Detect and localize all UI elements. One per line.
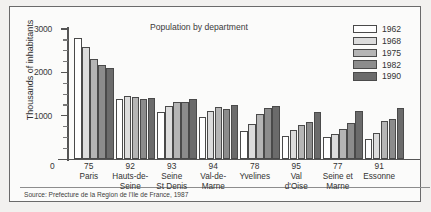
y-minor-tick-500 (63, 137, 68, 138)
x-label-name-77-1: Marne (309, 182, 367, 193)
y-tick-label-2000: 2000 (34, 67, 52, 77)
legend-label-1975: 1975 (382, 48, 401, 58)
bar-93-1975[interactable] (173, 102, 181, 159)
bar-94-1990[interactable] (231, 105, 239, 159)
bar-75-1975[interactable] (90, 59, 98, 159)
bar-94-1968[interactable] (207, 111, 215, 159)
bar-75-1982[interactable] (98, 65, 106, 159)
y-tick-1000 (61, 115, 68, 116)
y-tick-label-1000: 1000 (34, 111, 52, 121)
bar-91-1968[interactable] (373, 133, 381, 159)
bar-75-1962[interactable] (74, 38, 82, 159)
legend-label-1962: 1962 (382, 24, 401, 34)
x-axis-label-91: 91Essonne (351, 161, 409, 182)
bar-92-1968[interactable] (124, 96, 132, 159)
x-label-name-94-1: Marne (185, 182, 243, 193)
bar-95-1962[interactable] (282, 136, 290, 159)
bar-95-1975[interactable] (298, 125, 306, 159)
y-minor-tick-1500 (63, 94, 68, 95)
legend-item-1962[interactable]: 1962 (353, 24, 415, 35)
bar-92-1982[interactable] (140, 99, 148, 159)
bar-group-93 (157, 29, 197, 159)
bar-77-1968[interactable] (331, 134, 339, 159)
bar-77-1982[interactable] (347, 123, 355, 159)
chart-frame: Population by department Thousands of in… (9, 6, 421, 202)
bar-group-75 (74, 29, 114, 159)
bar-94-1982[interactable] (223, 109, 231, 159)
y-axis-zero-label: 0 (50, 161, 55, 171)
legend-swatch-1975 (353, 49, 377, 57)
legend-swatch-1990 (353, 72, 377, 80)
legend-item-1968[interactable]: 1968 (353, 36, 415, 47)
bar-93-1982[interactable] (181, 102, 189, 159)
x-label-code-91: 91 (351, 161, 409, 172)
bar-75-1990[interactable] (106, 68, 114, 159)
bar-group-78 (240, 29, 280, 159)
bar-95-1990[interactable] (314, 112, 322, 159)
bar-77-1990[interactable] (355, 111, 363, 159)
bar-91-1990[interactable] (397, 108, 405, 159)
bar-78-1962[interactable] (240, 131, 248, 159)
y-minor-tick-2750 (63, 39, 68, 40)
bar-78-1990[interactable] (272, 106, 280, 159)
y-minor-tick-2250 (63, 61, 68, 62)
bar-group-94 (199, 29, 239, 159)
legend-item-1990[interactable]: 1990 (353, 71, 415, 82)
bar-94-1962[interactable] (199, 117, 207, 159)
bar-91-1962[interactable] (365, 139, 373, 159)
y-tick-2000 (61, 72, 68, 73)
legend-label-1990: 1990 (382, 71, 401, 81)
y-minor-tick-1250 (63, 104, 68, 105)
bar-group-95 (282, 29, 322, 159)
bar-group-92 (116, 29, 156, 159)
bar-93-1968[interactable] (165, 106, 173, 159)
bar-92-1990[interactable] (148, 98, 156, 159)
chart-legend: 19621968197519821990 (353, 24, 415, 83)
bar-95-1982[interactable] (306, 122, 314, 159)
bar-77-1975[interactable] (339, 129, 347, 159)
legend-swatch-1968 (353, 37, 377, 45)
y-minor-tick-1750 (63, 83, 68, 84)
y-tick-3000 (61, 28, 68, 29)
bar-92-1962[interactable] (116, 99, 124, 159)
bar-78-1968[interactable] (248, 124, 256, 159)
bar-92-1975[interactable] (132, 97, 140, 159)
y-minor-tick-250 (63, 148, 68, 149)
legend-item-1975[interactable]: 1975 (353, 48, 415, 59)
bar-75-1968[interactable] (82, 47, 90, 159)
bar-78-1982[interactable] (264, 108, 272, 159)
y-minor-tick-750 (63, 126, 68, 127)
bar-95-1968[interactable] (290, 130, 298, 159)
bar-93-1962[interactable] (157, 112, 165, 159)
legend-label-1968: 1968 (382, 36, 401, 46)
legend-label-1982: 1982 (382, 60, 401, 70)
x-label-name-91-0: Essonne (351, 172, 409, 183)
bar-77-1962[interactable] (323, 137, 331, 159)
figure-bar-chart-population-by-department: Population by department Thousands of in… (0, 0, 431, 212)
bar-91-1982[interactable] (389, 119, 397, 159)
y-tick-label-3000: 3000 (34, 24, 52, 34)
legend-swatch-1962 (353, 25, 377, 33)
legend-swatch-1982 (353, 60, 377, 68)
y-axis-tick-labels: 100020003000 (10, 7, 60, 212)
bar-91-1975[interactable] (381, 121, 389, 159)
bar-78-1975[interactable] (256, 114, 264, 160)
legend-item-1982[interactable]: 1982 (353, 59, 415, 70)
y-minor-tick-2500 (63, 50, 68, 51)
bar-93-1990[interactable] (189, 99, 197, 159)
bar-94-1975[interactable] (215, 107, 223, 159)
